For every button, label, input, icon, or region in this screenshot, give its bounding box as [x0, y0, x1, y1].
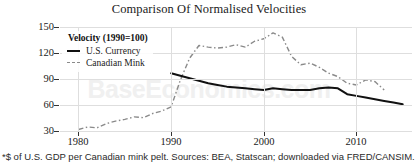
y-tick-mark-60 — [54, 105, 59, 106]
legend-item-canadian-mink: Canadian Mink — [66, 57, 148, 69]
y-tick-label-30: 30 — [20, 125, 54, 136]
y-tick-mark-30 — [54, 131, 59, 132]
vgridline-1990 — [171, 27, 172, 132]
chart-title: Comparison Of Normalised Velocities — [0, 2, 418, 17]
y-tick-mark-90 — [54, 79, 59, 80]
legend: Velocity (1990=100) U.S. Currency Canadi… — [62, 31, 153, 72]
legend-item-us-currency: U.S. Currency — [66, 45, 148, 57]
gridline-60 — [60, 105, 412, 106]
legend-swatch-solid-icon — [66, 47, 82, 55]
y-tick-label-150: 150 — [20, 21, 54, 32]
chart-container: BaseEconomics.com Comparison Of Normalis… — [0, 0, 418, 166]
legend-label-canadian-mink: Canadian Mink — [86, 58, 145, 68]
gridline-150 — [60, 27, 412, 28]
gridline-90 — [60, 79, 412, 80]
legend-swatch-dashed-icon — [66, 59, 82, 67]
x-tick-label-1990: 1990 — [151, 136, 191, 147]
footnote: *$ of U.S. GDP per Canadian mink pelt. S… — [2, 151, 415, 162]
y-tick-mark-120 — [54, 53, 59, 54]
y-tick-mark-150 — [54, 27, 59, 28]
gridline-30 — [60, 131, 412, 132]
y-tick-label-60: 60 — [20, 99, 54, 110]
x-tick-label-2010: 2010 — [336, 136, 376, 147]
vgridline-2000 — [264, 27, 265, 132]
x-tick-label-1980: 1980 — [58, 136, 98, 147]
legend-label-us-currency: U.S. Currency — [86, 46, 141, 56]
vgridline-2010 — [356, 27, 357, 132]
y-tick-label-120: 120 — [20, 47, 54, 58]
x-tick-label-2000: 2000 — [244, 136, 284, 147]
legend-title: Velocity (1990=100) — [66, 33, 148, 43]
y-tick-label-90: 90 — [20, 73, 54, 84]
line-us-currency — [171, 73, 403, 104]
